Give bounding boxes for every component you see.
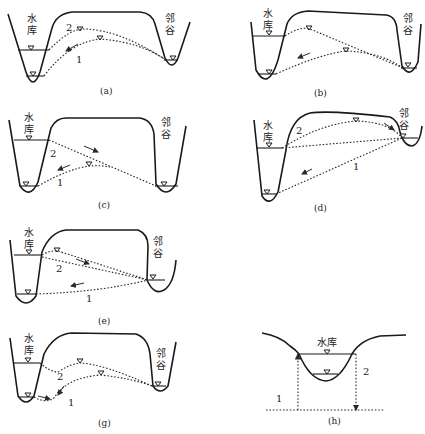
flow-direction-arrow-icon [76,259,89,264]
flow-direction-arrow-icon [66,44,78,51]
curve-label-2: 2 [50,148,56,159]
water-level-marker-icon [405,63,411,67]
water-level-marker-icon [266,31,272,35]
water-level-marker-icon [26,250,32,254]
reservoir-label: 库 [263,19,273,31]
panel-caption: (b) [314,88,327,98]
flow-direction-arrow-icon [71,283,84,286]
curve-label-2: 2 [66,22,72,33]
reservoir-label: 水库 [317,336,337,348]
reservoir-label: 水 [24,333,34,344]
panel-e: 2 1 水 库 邻 谷 (e) [10,227,176,326]
curve-label-1: 1 [353,161,359,172]
valley-label: 邻 [161,116,171,128]
water-level-marker-icon [25,358,31,362]
water-level-marker-icon [25,290,31,294]
water-level-marker-icon [25,393,31,397]
valley-label: 谷 [399,120,409,131]
flow-direction-arrow-icon [302,169,312,174]
terrain-profile [9,118,186,192]
reservoir-label: 库 [24,238,34,250]
water-level-marker-icon [98,371,104,375]
curve-label-1: 1 [276,393,282,404]
water-level-marker-icon [170,56,176,60]
flow-direction-arrow-icon [84,146,98,152]
panel-caption: (e) [98,316,110,326]
seepage-curve-1 [276,51,403,74]
valley-label: 邻 [156,347,166,359]
seepage-curve-1 [38,166,110,186]
water-level-marker-icon [23,182,29,186]
water-level-marker-icon [30,72,36,76]
curve-label-1: 1 [86,293,92,304]
reservoir-label: 水 [27,13,37,24]
seepage-curve-2 [49,140,156,186]
seepage-curve-1 [276,138,402,194]
valley-label: 谷 [156,360,166,371]
seepage-curve-1 [36,280,148,294]
water-level-marker-icon [77,359,83,363]
reservoir-label: 库 [263,131,273,143]
valley-label: 邻 [399,107,409,119]
valley-label: 谷 [161,129,171,140]
terrain-profile [10,333,176,402]
seepage-curve-2 [49,29,166,60]
water-level-marker-icon [86,162,92,166]
reservoir-label: 库 [24,123,34,135]
reservoir-label: 库 [24,344,34,356]
curve-label-1: 1 [76,54,82,65]
panel-a: 2 1 水 库 邻 谷 (a) [8,12,190,96]
water-level-marker-icon [324,370,330,374]
water-level-marker-icon [266,70,272,74]
seepage-curve-2-lower [282,138,402,148]
water-level-marker-icon [324,350,330,354]
panel-g: 2 1 水 库 邻 谷 (g) [10,333,176,428]
reservoir-label: 水 [24,227,34,238]
water-level-marker-icon [150,275,156,279]
flow-direction-arrow-icon [298,53,310,58]
reservoir-label: 水 [263,120,273,131]
water-level-marker-icon [400,134,406,138]
water-level-marker-icon [264,190,270,194]
curve-label-2: 2 [363,366,369,377]
water-level-marker-icon [266,143,272,147]
reservoir-seepage-figure: 2 1 水 库 邻 谷 (a) 水 库 邻 谷 (b) [0,0,425,434]
curve-label-2: 2 [57,371,63,382]
terrain-profile [10,230,176,303]
water-level-marker-icon [28,46,34,50]
panel-caption: (c) [98,200,110,210]
water-level-marker-icon [26,136,32,140]
panel-h: 1 2 水库 (h) [262,333,406,426]
flow-direction-arrow-icon [38,396,50,399]
panel-d: 2 1 水 库 邻 谷 (d) [254,107,422,213]
curve-label-2: 2 [296,125,302,136]
terrain-profile [251,11,421,79]
flow-direction-arrow-icon [58,165,70,170]
panel-caption: (h) [328,416,341,426]
panel-caption: (g) [98,418,111,428]
diagram-canvas: 2 1 水 库 邻 谷 (a) 水 库 邻 谷 (b) [0,0,425,434]
curve-label-1: 1 [68,397,74,408]
panel-caption: (d) [314,203,327,213]
valley-label: 邻 [165,12,175,24]
valley-label: 谷 [153,248,163,259]
seepage-curve-1 [44,39,166,76]
valley-label: 谷 [403,25,413,36]
reservoir-label: 水 [263,8,273,19]
water-level-marker-icon [155,382,161,386]
terrain-profile [254,112,422,201]
water-level-marker-icon [161,182,167,186]
panel-b: 水 库 邻 谷 (b) [251,8,421,98]
valley-label: 邻 [153,235,163,247]
valley-label: 谷 [165,25,175,36]
flow-direction-arrow-icon [58,386,64,395]
curve-label-2: 2 [56,263,62,274]
valley-label: 邻 [403,12,413,24]
curve-label-1: 1 [57,177,63,188]
reservoir-label: 库 [27,24,37,36]
panel-c: 2 1 水 库 邻 谷 (c) [9,112,186,210]
panel-caption: (a) [100,86,112,96]
reservoir-label: 水 [24,112,34,123]
seepage-curve-1 [34,375,152,401]
